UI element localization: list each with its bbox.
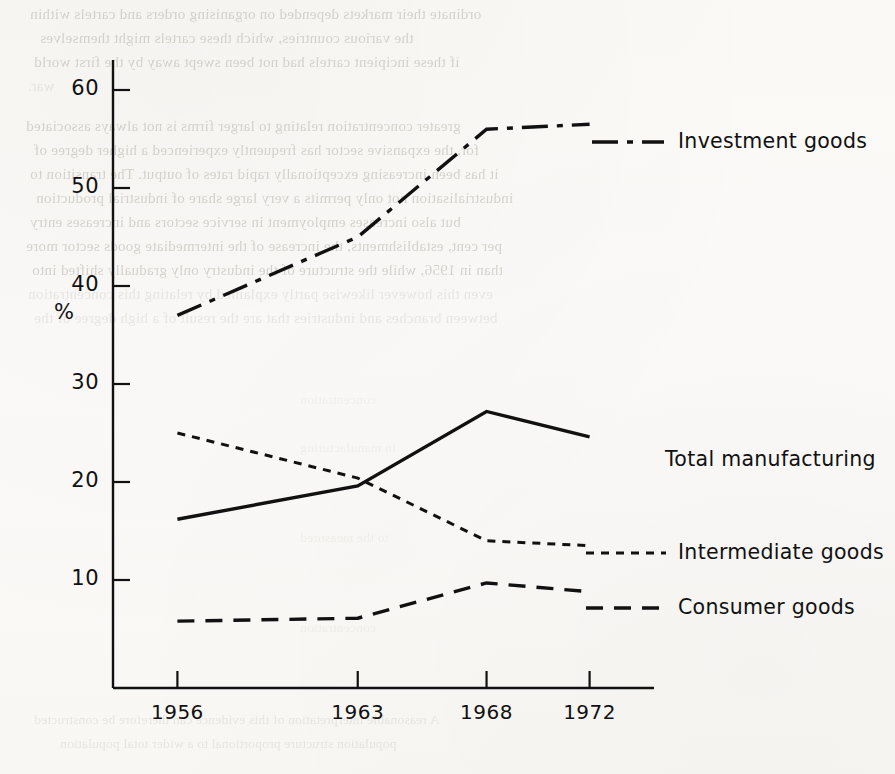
- series-label-investment-goods: Investment goods: [678, 129, 867, 153]
- y-axis-title: %: [54, 300, 74, 324]
- x-tick-label: 1963: [308, 700, 408, 724]
- y-tick-label: 40: [37, 272, 99, 296]
- series-line-consumer-goods: [177, 583, 589, 621]
- x-tick-label: 1956: [127, 700, 227, 724]
- chart-series-group: [177, 124, 589, 621]
- series-label-total-manufacturing: Total manufacturing: [665, 447, 876, 471]
- y-tick-label: 60: [37, 76, 99, 100]
- line-chart: [0, 0, 895, 774]
- series-label-intermediate-goods: Intermediate goods: [678, 540, 884, 564]
- chart-axes: [113, 60, 654, 688]
- series-line-total-manufacturing: [177, 411, 589, 519]
- legend-line-swatches: [586, 142, 666, 608]
- series-line-investment-goods: [177, 124, 589, 315]
- y-tick-label: 20: [37, 468, 99, 492]
- x-tick-label: 1972: [540, 700, 640, 724]
- y-tick-label: 30: [37, 370, 99, 394]
- y-axis-ticks: [113, 90, 130, 580]
- y-tick-label: 10: [37, 566, 99, 590]
- x-axis-ticks: [177, 671, 589, 688]
- series-line-intermediate-goods: [177, 433, 589, 546]
- series-label-consumer-goods: Consumer goods: [678, 595, 855, 619]
- y-tick-label: 50: [37, 174, 99, 198]
- x-tick-label: 1968: [437, 700, 537, 724]
